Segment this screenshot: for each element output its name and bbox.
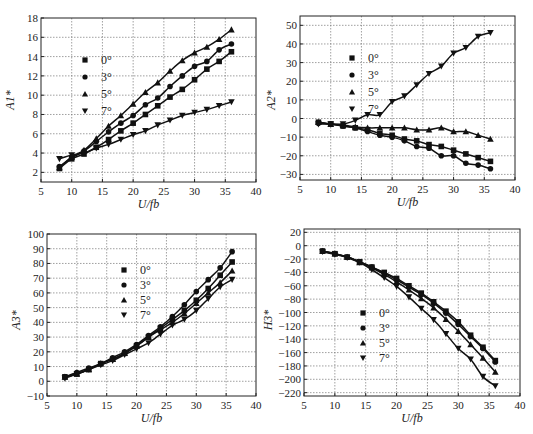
grid: [300, 16, 515, 180]
triangle-down-marker: [463, 45, 470, 51]
circle-marker: [414, 144, 420, 150]
square-marker: [82, 57, 87, 62]
circle-marker: [121, 282, 126, 287]
y-tick-label: −10: [27, 390, 45, 402]
y-tick-label: −100: [278, 307, 301, 319]
circle-marker: [438, 153, 444, 159]
square-marker: [488, 159, 494, 165]
y-tick-label: −80: [284, 293, 302, 305]
chart-panel-a3: 510152025303540−100102030405060708090100…: [9, 228, 262, 425]
legend-label: 0°: [140, 263, 151, 277]
legend-label: 0°: [101, 53, 112, 67]
plot-frame: [300, 16, 515, 180]
circle-marker: [402, 138, 408, 144]
y-tick-label: −30: [280, 168, 298, 180]
y-tick-label: 10: [33, 361, 45, 373]
x-tick-label: 40: [251, 185, 263, 197]
legend: 0°3°5°7°: [82, 53, 112, 118]
triangle-down-marker: [133, 346, 140, 352]
square-marker: [463, 151, 469, 157]
y-tick-label: −40: [284, 266, 302, 278]
y-tick-label: −10: [280, 131, 298, 143]
y-axis-title: H3*: [261, 310, 275, 332]
y-tick-label: −20: [280, 150, 298, 162]
x-axis-title: U/fb: [141, 411, 162, 425]
y-tick-label: 90: [33, 243, 45, 255]
y-tick-label: 100: [28, 228, 45, 240]
square-marker: [229, 259, 235, 265]
y-axis-title: A3*: [9, 310, 23, 330]
y-tick-label: 4: [33, 147, 39, 159]
legend: 0°3°5°7°: [121, 263, 151, 322]
circle-marker: [130, 113, 136, 119]
circle-marker: [217, 265, 223, 271]
y-tick-label: 50: [33, 302, 45, 314]
circle-marker: [451, 153, 457, 159]
legend-label: 7°: [101, 104, 112, 118]
chart-panel-h3: 510152025303540−220−200−180−160−140−120−…: [261, 226, 526, 425]
triangle-down-marker: [401, 93, 408, 99]
x-tick-label: 40: [251, 399, 263, 411]
y-tick-label: −200: [278, 373, 301, 385]
x-tick-label: 20: [131, 399, 143, 411]
y-tick-label: 40: [286, 38, 298, 50]
y-tick-label: −180: [278, 360, 301, 372]
y-tick-label: 0: [296, 240, 302, 252]
circle-marker: [229, 249, 235, 255]
circle-marker: [216, 47, 222, 53]
x-tick-label: 20: [128, 185, 140, 197]
x-tick-label: 10: [66, 185, 78, 197]
y-tick-label: 70: [33, 272, 45, 284]
y-tick-label: 0: [292, 113, 298, 125]
legend-label: 5°: [368, 85, 379, 99]
x-tick-label: 20: [387, 183, 399, 195]
square-marker: [217, 272, 223, 278]
square-marker: [130, 120, 136, 126]
y-tick-label: 16: [27, 31, 39, 43]
circle-marker: [360, 325, 365, 330]
x-tick-label: 5: [301, 399, 307, 411]
y-tick-label: 8: [33, 108, 39, 120]
y-tick-label: −20: [284, 253, 302, 265]
legend-label: 3°: [379, 321, 390, 335]
circle-marker: [205, 277, 211, 283]
x-tick-label: 30: [191, 399, 203, 411]
legend: 0°3°5°7°: [349, 51, 379, 116]
y-tick-label: −140: [278, 333, 301, 345]
circle-marker: [167, 84, 173, 90]
legend-label: 5°: [101, 87, 112, 101]
x-tick-label: 5: [38, 185, 44, 197]
circle-marker: [82, 74, 87, 79]
circle-marker: [468, 334, 474, 340]
square-marker: [167, 94, 173, 100]
square-marker: [192, 77, 198, 83]
x-tick-label: 10: [71, 399, 83, 411]
triangle-down-marker: [82, 108, 88, 114]
x-tick-label: 25: [422, 399, 434, 411]
x-tick-label: 10: [329, 399, 341, 411]
x-axis-title: U/fb: [401, 411, 422, 425]
square-marker: [155, 103, 161, 109]
triangle-up-marker: [121, 297, 127, 303]
x-tick-label: 15: [101, 399, 113, 411]
triangle-down-marker: [121, 312, 127, 318]
chart-panel-a1: 51015202530354024681012141618U/fbA1*0°3°…: [3, 12, 262, 211]
triangle-down-marker: [145, 340, 152, 346]
y-axis-title: A2*: [264, 90, 278, 110]
y-tick-label: 2: [33, 166, 39, 178]
y-tick-label: −220: [278, 387, 301, 399]
triangle-down-marker: [360, 355, 366, 361]
y-tick-label: 10: [27, 89, 39, 101]
legend: 0°3°5°7°: [360, 306, 390, 365]
circle-marker: [155, 95, 161, 101]
circle-marker: [193, 289, 199, 295]
circle-marker: [229, 41, 235, 47]
legend-label: 0°: [368, 51, 379, 65]
triangle-down-marker: [181, 317, 188, 323]
circle-marker: [480, 346, 486, 352]
x-tick-label: 20: [391, 399, 403, 411]
circle-marker: [143, 102, 149, 108]
square-marker: [360, 310, 365, 315]
x-tick-label: 35: [220, 185, 232, 197]
triangle-up-marker: [228, 26, 235, 32]
